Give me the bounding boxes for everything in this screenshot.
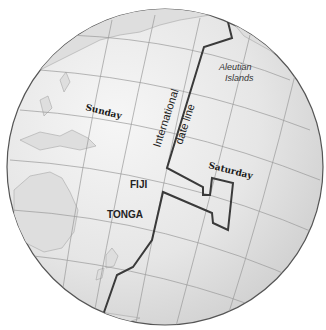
globe-svg: Sunday Saturday FIJI TONGA Aleutian Isla… — [0, 0, 326, 330]
globe-map: Sunday Saturday FIJI TONGA Aleutian Isla… — [0, 0, 326, 330]
label-aleutian-1: Aleutian — [218, 62, 252, 72]
label-fiji: FIJI — [130, 179, 147, 190]
label-tonga: TONGA — [107, 209, 143, 220]
label-aleutian-2: Islands — [225, 73, 254, 83]
